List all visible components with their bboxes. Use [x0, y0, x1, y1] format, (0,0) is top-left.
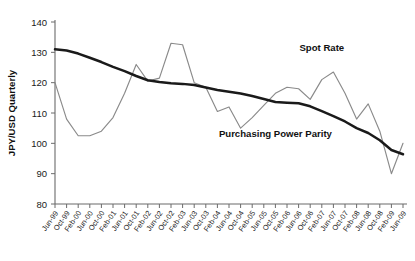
annotation-spot-rate: Spot Rate: [299, 42, 344, 53]
y-tick-label: 130: [31, 47, 47, 58]
y-tick-label: 110: [32, 108, 47, 119]
chart-container: 8090100110120130140 Jun-99Oct-99Feb-00Ju…: [0, 0, 415, 261]
y-tick-label: 100: [31, 138, 47, 149]
x-axis: Jun-99Oct-99Feb-00Jun-00Oct-00Feb-01Jun-…: [40, 204, 408, 233]
series-line-spot-rate: [55, 43, 403, 173]
chart-plot: 8090100110120130140 Jun-99Oct-99Feb-00Ju…: [0, 0, 415, 261]
annotation-purchasing-power-parity: Purchasing Power Parity: [219, 128, 333, 139]
y-tick-label: 90: [36, 168, 47, 179]
y-tick-label: 120: [31, 77, 47, 88]
y-tick-label: 140: [31, 17, 47, 28]
y-axis: 8090100110120130140: [31, 17, 55, 210]
data-series-group: [55, 43, 403, 173]
y-tick-label: 80: [36, 199, 47, 210]
y-axis-title: JPY/USD Quarterly: [6, 69, 17, 156]
